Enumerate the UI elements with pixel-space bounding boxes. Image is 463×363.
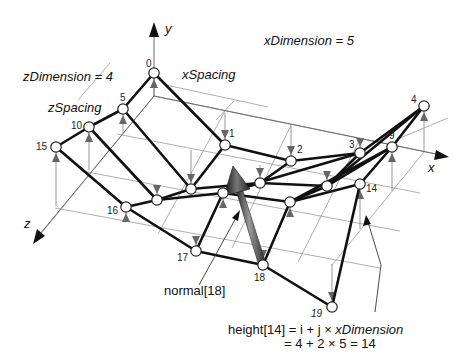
x-dimension-label: xDimension = 5 [263, 33, 355, 48]
vertex-node-10 [84, 122, 94, 132]
edge-18-19 [263, 265, 332, 307]
height-arrow-up-icon [122, 213, 130, 222]
vertex-label-16: 16 [107, 205, 119, 216]
vertex-node-13 [285, 197, 295, 207]
vertex-node-3 [355, 148, 365, 158]
edge-1-2 [225, 145, 291, 161]
y-axis-arrow-icon [149, 22, 159, 37]
edge-5-6 [123, 109, 191, 189]
edge-17-18 [196, 251, 263, 265]
vertex-label-3: 3 [349, 139, 355, 150]
vertex-node-1 [220, 140, 230, 150]
vertex-label-4: 4 [411, 94, 417, 105]
vertex-node-12 [218, 188, 228, 198]
height-arrow-up-icon [388, 153, 396, 162]
height-arrow-up-icon [420, 112, 428, 121]
height-formula-line2: = 4 + 2 × 5 = 14 [284, 336, 376, 351]
height-leader-arrow-icon [363, 215, 371, 226]
vertex-label-15: 15 [36, 141, 48, 152]
height-arrow-up-icon [150, 79, 158, 88]
vertex-node-19 [327, 302, 337, 312]
height-arrow-down-icon [356, 138, 364, 147]
edge-13-18 [263, 202, 290, 265]
vertex-node-2 [286, 156, 296, 166]
vertex-label-10: 10 [71, 120, 83, 131]
edge-12-13 [223, 193, 290, 202]
x-axis-arrow-icon [434, 150, 449, 160]
vertex-node-15 [51, 142, 61, 152]
normal-label: normal[18] [164, 283, 225, 298]
height-arrow-down-icon [153, 185, 161, 194]
vertex-node-7 [255, 178, 265, 188]
vertex-label-19: 19 [311, 308, 323, 319]
vertex-label-1: 1 [229, 128, 235, 139]
height-arrow-down-icon [287, 146, 295, 155]
height-arrow-up-icon [119, 115, 127, 124]
z-spacing-label: zSpacing [47, 100, 102, 115]
vertex-node-18 [258, 260, 268, 270]
height-arrow-up-icon [52, 153, 60, 162]
vertex-label-17: 17 [177, 252, 189, 263]
edge-0-1 [154, 73, 225, 145]
vertex-node-6 [186, 184, 196, 194]
vertex-label-18: 18 [254, 272, 266, 283]
vertex-label-5: 5 [120, 92, 126, 103]
normal-leader-arrow-icon [232, 210, 240, 221]
normal-leader-line [199, 216, 237, 285]
height-arrow-down-icon [256, 168, 264, 177]
vertex-node-9 [387, 142, 397, 152]
z-dimension-label: zDimension = 4 [22, 69, 113, 84]
edge-0-5 [123, 73, 154, 109]
vertex-node-4 [419, 101, 429, 111]
z-axis-label: z [23, 216, 31, 231]
height-formula-line1: height[14] = i + j × xDimension [228, 322, 403, 337]
vertex-node-0 [149, 68, 159, 78]
indexed-face-set-grid-diagram: 012345910141516171819 y x z xDimension =… [0, 0, 463, 363]
edge-16-17 [126, 207, 196, 251]
height-arrow-down-icon [221, 130, 229, 139]
vertex-label-2: 2 [297, 144, 303, 155]
vertex-node-16 [121, 202, 131, 212]
vertex-node-17 [191, 246, 201, 256]
vertex-node-14 [355, 179, 365, 189]
vertex-node-8 [322, 181, 332, 191]
y-axis-label: y [164, 21, 173, 36]
vertex-label-0: 0 [146, 58, 152, 69]
x-spacing-label: xSpacing [181, 67, 236, 82]
edge-7-8 [260, 183, 327, 186]
edge-14-19 [332, 184, 360, 307]
vertex-label-14: 14 [366, 183, 378, 194]
vertex-node-11 [152, 195, 162, 205]
vertex-label-9: 9 [389, 130, 395, 141]
edge-12-17 [196, 193, 223, 251]
ground-grid [40, 63, 448, 268]
vertex-node-5 [118, 104, 128, 114]
x-axis-label: x [427, 160, 435, 175]
height-arrow-up-icon [85, 133, 93, 142]
